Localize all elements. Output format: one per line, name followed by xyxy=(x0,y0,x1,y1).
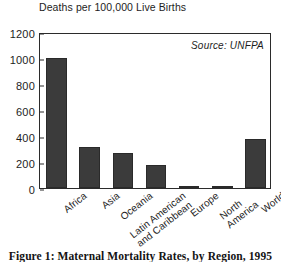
x-axis-tick-label: North America xyxy=(218,190,261,230)
y-axis-tick-label: 600 xyxy=(16,106,35,118)
y-axis-tick-label: 0 xyxy=(29,184,35,196)
y-axis-tick-mark xyxy=(40,60,44,61)
x-axis-tick-label: World xyxy=(260,190,281,215)
x-axis-labels: AfricaAsiaOceaniaLatin American and Cari… xyxy=(39,190,271,250)
figure-container: Deaths per 100,000 Live Births Source: U… xyxy=(0,0,281,264)
y-axis-tick-label: 1200 xyxy=(10,28,35,40)
chart-axis-title: Deaths per 100,000 Live Births xyxy=(39,1,186,14)
y-axis-tick-mark xyxy=(40,34,44,35)
bar xyxy=(79,147,100,188)
y-axis-tick-label: 800 xyxy=(16,80,35,92)
bar xyxy=(113,153,134,188)
x-axis-tick-label: Asia xyxy=(99,190,121,211)
y-axis-tick-label: 1000 xyxy=(10,54,35,66)
bar xyxy=(46,58,67,188)
bar xyxy=(179,186,200,188)
y-axis-tick-mark xyxy=(40,138,44,139)
bar xyxy=(146,165,167,188)
plot-area: Source: UNFPA 020040060080010001200 xyxy=(39,33,271,189)
bar xyxy=(212,186,233,188)
y-axis-tick-mark xyxy=(40,86,44,87)
y-axis-tick-mark xyxy=(40,112,44,113)
x-axis-tick-label: Europe xyxy=(188,190,221,219)
y-axis-tick-label: 200 xyxy=(16,158,35,170)
y-axis-tick-label: 400 xyxy=(16,132,35,144)
bars-layer xyxy=(40,34,270,188)
x-axis-tick-label: Africa xyxy=(61,190,88,215)
figure-caption: Figure 1: Maternal Mortality Rates, by R… xyxy=(0,250,281,262)
y-axis-tick-mark xyxy=(40,164,44,165)
bar xyxy=(245,139,266,188)
